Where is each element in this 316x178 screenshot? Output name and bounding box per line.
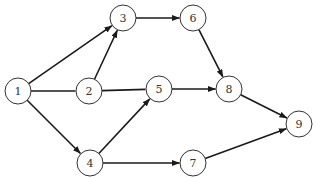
node-label: 9 <box>296 118 303 131</box>
node-label: 2 <box>86 85 93 98</box>
node-3: 3 <box>110 5 136 31</box>
node-6: 6 <box>180 5 206 31</box>
node-label: 8 <box>226 83 233 96</box>
node-2: 2 <box>76 78 102 104</box>
node-label: 7 <box>190 157 197 170</box>
node-label: 3 <box>120 12 127 25</box>
node-label: 1 <box>15 85 22 98</box>
network-diagram: 123456789 <box>0 0 316 178</box>
edge-1-to-3 <box>29 26 112 84</box>
node-1: 1 <box>5 78 31 104</box>
edge-8-to-9 <box>241 95 287 118</box>
node-5: 5 <box>146 76 172 102</box>
node-9: 9 <box>286 111 312 137</box>
node-8: 8 <box>216 76 242 102</box>
node-7: 7 <box>180 150 206 176</box>
node-label: 4 <box>87 157 94 170</box>
edge-4-to-5 <box>99 99 150 154</box>
edge-2-to-3 <box>94 30 117 79</box>
node-label: 5 <box>156 83 163 96</box>
edge-2-to-5 <box>102 89 146 90</box>
node-4: 4 <box>77 150 103 176</box>
edge-1-to-4 <box>27 100 80 153</box>
edge-7-to-9 <box>205 129 286 159</box>
edge-6-to-8 <box>199 30 223 77</box>
node-label: 6 <box>190 12 197 25</box>
